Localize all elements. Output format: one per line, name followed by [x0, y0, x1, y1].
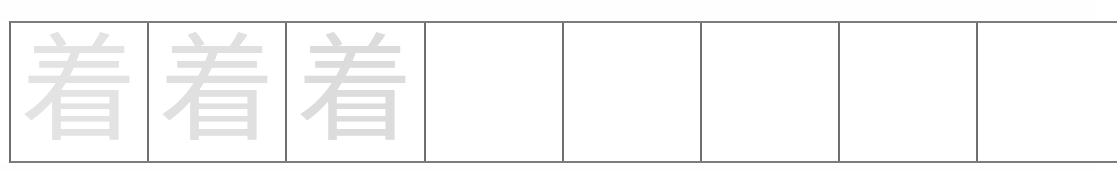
practice-cell-4[interactable]: [426, 23, 564, 161]
practice-cell-3[interactable]: 着: [287, 23, 425, 161]
practice-cell-8[interactable]: [978, 23, 1118, 161]
character-practice-grid: 着 着 着: [9, 21, 1117, 163]
guide-character-2: 着: [159, 32, 275, 148]
sheet-top-margin: [0, 0, 1096, 21]
sheet-bottom-margin: [0, 163, 1096, 171]
practice-cell-7[interactable]: [840, 23, 978, 161]
practice-cell-2[interactable]: 着: [149, 23, 287, 161]
practice-cell-5[interactable]: [564, 23, 702, 161]
guide-character-3: 着: [297, 32, 413, 148]
guide-character-1: 着: [21, 32, 137, 148]
practice-cell-1[interactable]: 着: [11, 23, 149, 161]
practice-cell-6[interactable]: [702, 23, 840, 161]
